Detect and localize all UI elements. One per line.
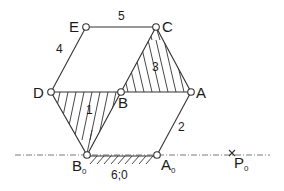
link-3-label: 3 (152, 60, 159, 74)
link-3-triangle (116, 0, 192, 92)
label-p0: P0 (234, 154, 249, 173)
joint-a (188, 89, 195, 96)
joint-a0 (154, 152, 161, 159)
ground-label: 6;0 (111, 168, 128, 182)
joint-e (83, 24, 90, 31)
label-a0: A0 (161, 156, 176, 175)
linkage-diagram: E C D B A B0 A0 P0 5 4 3 1 2 6;0 (0, 0, 284, 191)
joint-c (153, 24, 160, 31)
label-d: D (33, 84, 44, 101)
link-1-triangle (50, 92, 124, 158)
label-e: E (69, 18, 79, 35)
label-a: A (196, 84, 206, 101)
link-4 (51, 27, 86, 92)
joint-b0 (84, 152, 91, 159)
ground-hatching (87, 156, 157, 164)
label-c: C (162, 18, 173, 35)
link-2 (157, 92, 191, 155)
joint-d (48, 89, 55, 96)
link-4-label: 4 (56, 42, 63, 56)
link-2-label: 2 (178, 120, 185, 134)
link-5-label: 5 (118, 9, 125, 23)
link-1-label: 1 (86, 103, 93, 117)
label-b0: B0 (72, 157, 87, 176)
label-b: B (118, 94, 128, 111)
